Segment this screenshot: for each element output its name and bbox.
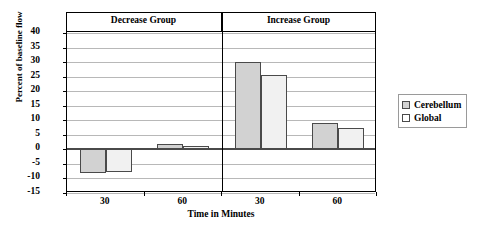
y-axis-tick-mark <box>63 120 67 121</box>
y-axis-tick-label: 35 <box>16 42 40 52</box>
legend-label: Global <box>414 113 441 123</box>
bar-global-30-1 <box>261 75 287 149</box>
bar-cerebellum-60-0 <box>157 144 183 150</box>
group-title: Increase Group <box>221 15 376 25</box>
bar-chart: Percent of baseline flow 403530252015105… <box>0 0 492 227</box>
y-axis-tick-label: 25 <box>16 71 40 81</box>
group-divider <box>222 13 223 191</box>
gridline <box>67 91 375 92</box>
gridline <box>67 178 375 179</box>
x-axis-tick-label: 30 <box>85 196 125 206</box>
gridline <box>67 33 375 34</box>
group-divider <box>221 12 222 31</box>
y-axis-tick-label: 40 <box>16 27 40 37</box>
gridline <box>67 106 375 107</box>
bar-global-60-1 <box>338 128 364 149</box>
y-axis-tick-mark <box>63 62 67 63</box>
x-axis-tick-mark <box>299 192 300 196</box>
y-axis-tick-mark <box>63 106 67 107</box>
x-axis-tick-label: 60 <box>162 196 202 206</box>
y-axis-tick-labels: 4035302520151050-5-10-15 <box>10 0 40 227</box>
chart-legend: CerebellumGlobal <box>398 94 467 128</box>
bar-cerebellum-30-0 <box>80 149 106 172</box>
plot-area <box>66 12 376 192</box>
legend-swatch-icon <box>402 114 410 122</box>
x-axis-tick-mark <box>66 192 67 196</box>
bar-cerebellum-30-1 <box>235 62 261 149</box>
y-axis-tick-label: 30 <box>16 56 40 66</box>
y-axis-tick-label: 20 <box>16 85 40 95</box>
y-axis-tick-mark <box>63 149 67 150</box>
legend-swatch-icon <box>402 101 410 109</box>
x-axis-tick-label: 30 <box>240 196 280 206</box>
gridline <box>67 62 375 63</box>
group-title: Decrease Group <box>66 15 221 25</box>
gridline <box>67 48 375 49</box>
y-axis-tick-label: -5 <box>16 158 40 168</box>
y-axis-tick-label: 15 <box>16 100 40 110</box>
gridline <box>67 77 375 78</box>
y-axis-tick-mark <box>63 164 67 165</box>
y-axis-tick-label: -15 <box>16 187 40 197</box>
gridline <box>67 120 375 121</box>
y-axis-tick-mark <box>63 178 67 179</box>
y-axis-tick-mark <box>63 33 67 34</box>
bar-cerebellum-60-1 <box>312 123 338 149</box>
y-axis-tick-label: 10 <box>16 114 40 124</box>
y-axis-tick-mark <box>63 91 67 92</box>
x-axis-tick-mark <box>144 192 145 196</box>
legend-item: Global <box>402 111 461 124</box>
bar-global-30-0 <box>106 149 132 172</box>
bar-global-60-0 <box>183 146 209 149</box>
y-axis-tick-mark <box>63 48 67 49</box>
group-header-band: Decrease GroupIncrease Group <box>66 12 376 32</box>
x-axis-title: Time in Minutes <box>66 209 376 219</box>
y-axis-tick-mark <box>63 135 67 136</box>
y-axis-tick-label: -10 <box>16 172 40 182</box>
y-axis-tick-label: 0 <box>16 143 40 153</box>
x-axis-tick-mark <box>221 192 222 196</box>
legend-item: Cerebellum <box>402 98 461 111</box>
x-axis-tick-label: 60 <box>317 196 357 206</box>
y-axis-tick-mark <box>63 77 67 78</box>
x-axis-tick-mark <box>376 192 377 196</box>
y-axis-tick-label: 5 <box>16 129 40 139</box>
legend-label: Cerebellum <box>414 100 461 110</box>
